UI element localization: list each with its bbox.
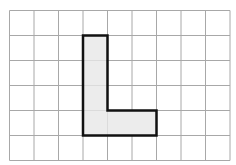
shape-cell [83,61,108,86]
shape-cell [83,111,108,136]
grid-lines [10,11,231,161]
shape-cell [83,86,108,111]
l-shape-grid-diagram [0,0,236,165]
shape-cell [83,36,108,61]
shape-cell [132,111,157,136]
shape-cell [108,111,133,136]
